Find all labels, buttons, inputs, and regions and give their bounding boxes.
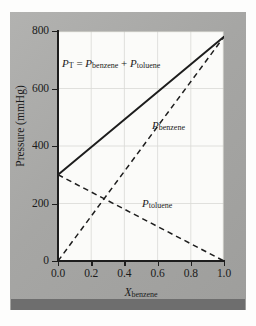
annotation-term2-symbol: P xyxy=(130,57,137,69)
figure-bottom-bar xyxy=(11,299,245,310)
y-axis-line xyxy=(57,30,59,262)
y-tick-label-200: 200 xyxy=(3,198,49,210)
y-axis-title-text: Pressure (mmHg) xyxy=(14,85,26,166)
y-tick-mark-200 xyxy=(52,204,57,205)
annotation-toluene-label: Ptoluene xyxy=(142,198,172,210)
y-tick-mark-0 xyxy=(52,261,57,262)
annotation-term1-sub: benzene xyxy=(92,61,118,70)
y-tick-label-600: 600 xyxy=(3,83,49,95)
y-axis-title: Pressure (mmHg) xyxy=(14,66,26,186)
plot-area: PT = Pbenzene + Ptoluene Pbenzene Ptolue… xyxy=(58,31,224,261)
y-tick-label-400: 400 xyxy=(3,140,49,152)
curve-benzene-partial-pressure xyxy=(58,37,224,261)
annotation-total-pressure-equation: PT = Pbenzene + Ptoluene xyxy=(62,58,160,70)
y-tick-mark-800 xyxy=(52,31,57,32)
y-tick-label-800: 800 xyxy=(3,25,49,37)
x-tick-mark-0.0 xyxy=(58,261,59,266)
y-tick-label-0: 0 xyxy=(3,255,49,267)
annotation-pt-symbol: P xyxy=(62,57,69,69)
y-tick-mark-600 xyxy=(52,89,57,90)
figure-root: PT = Pbenzene + Ptoluene Pbenzene Ptolue… xyxy=(0,0,256,326)
annotation-toluene-symbol: P xyxy=(142,197,149,209)
x-tick-label-1.0: 1.0 xyxy=(204,268,244,280)
annotation-benzene-sub: benzene xyxy=(159,123,185,132)
x-tick-mark-0.6 xyxy=(158,261,159,266)
x-tick-mark-0.8 xyxy=(191,261,192,266)
y-tick-mark-400 xyxy=(52,146,57,147)
annotation-equals: = xyxy=(74,57,86,69)
annotation-plus: + xyxy=(118,57,130,69)
annotation-toluene-sub: toluene xyxy=(149,201,173,210)
x-axis-line xyxy=(57,260,225,262)
x-tick-mark-0.2 xyxy=(91,261,92,266)
annotation-term2-sub: toluene xyxy=(137,61,161,70)
annotation-benzene-symbol: P xyxy=(152,119,159,131)
annotation-benzene-label: Pbenzene xyxy=(152,120,185,132)
x-axis-title: Xbenzene xyxy=(58,286,224,299)
x-tick-mark-1.0 xyxy=(224,261,225,266)
x-tick-mark-0.4 xyxy=(124,261,125,266)
x-axis-title-sub: benzene xyxy=(131,290,157,299)
curve-toluene-partial-pressure xyxy=(58,175,224,261)
